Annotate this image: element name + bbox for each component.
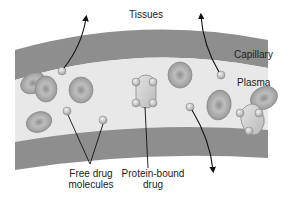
plasma-label: Plasma [237, 77, 270, 88]
drug-distribution-diagram: Tissues Capillary Plasma Free drug molec… [0, 0, 290, 200]
protein-bound-label-line1: Protein-bound [119, 168, 187, 179]
free-drug-label: Free drug molecules [66, 168, 116, 190]
capillary-label: Capillary [234, 49, 273, 60]
protein-bound-drug-center [132, 75, 157, 108]
protein-bound-label: Protein-bound drug [119, 168, 187, 190]
tissues-label: Tissues [129, 9, 163, 20]
protein-bound-label-line2: drug [119, 179, 187, 190]
free-drug-label-line1: Free drug [66, 168, 116, 179]
free-drug-label-line2: molecules [66, 179, 116, 190]
